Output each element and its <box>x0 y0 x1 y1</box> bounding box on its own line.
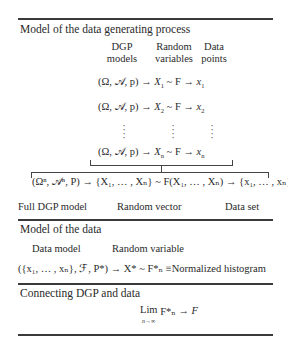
distribution: ~ F <box>167 146 181 157</box>
header-line: DGP <box>99 41 145 53</box>
arrow-icon: → <box>111 263 122 274</box>
vdots-icon: ···· <box>209 123 215 139</box>
normalized-histogram: Normalized histogram <box>172 263 266 274</box>
arrow-icon: → <box>183 101 194 112</box>
bottom-rule <box>18 334 273 336</box>
column-header-dgp-models: DGP models <box>99 41 145 65</box>
header-line: models <box>99 53 145 65</box>
probability-space: (Ω, 𝒜, p) <box>98 76 139 87</box>
label-full-dgp-model: Full DGP model <box>18 201 87 212</box>
label-data-set: Data set <box>225 201 259 212</box>
subscript: n <box>201 152 204 159</box>
column-header-data-points: Data points <box>198 41 230 65</box>
true-distribution: F <box>192 305 198 316</box>
arrow-icon: → <box>183 76 194 87</box>
subscript: 1 <box>201 82 204 89</box>
column-header-random-variable: Random variable <box>112 243 184 254</box>
arrow-icon: → <box>82 176 93 187</box>
subscript: 2 <box>201 107 204 114</box>
limit-equation: Lim n→∞ F*ₙ → F <box>140 305 198 326</box>
arrow-icon: → <box>141 101 152 112</box>
subscript: 2 <box>161 107 164 114</box>
probability-space: (Ω, 𝒜, p) <box>98 146 139 157</box>
vdots-icon: ···· <box>170 123 176 139</box>
subscript: 1 <box>161 82 164 89</box>
subscript: n <box>161 152 164 159</box>
random-vector: {X₁, … , Xₙ} <box>96 176 153 187</box>
lim-text: Lim <box>140 304 158 315</box>
distribution: ~ F <box>167 101 181 112</box>
arrow-icon: → <box>141 76 152 87</box>
joint-distribution: ~ F(X₁, … , Xₙ) <box>155 176 223 187</box>
dgp-row-2: (Ω, 𝒜, p) → X2 ~ F → x2 <box>98 101 204 114</box>
arrow-icon: → <box>178 305 189 316</box>
section-title-data-model: Model of the data <box>20 223 101 235</box>
header-line: points <box>198 53 230 65</box>
header-line: variables <box>152 53 196 65</box>
lim-subscript: n→∞ <box>142 318 155 324</box>
arrow-icon: → <box>141 146 152 157</box>
full-dgp-equation: (Ωⁿ, 𝒜ⁿ, P) → {X₁, … , Xₙ} ~ F(X₁, … , X… <box>32 175 288 188</box>
arrow-icon: → <box>226 176 237 187</box>
empirical-cdf: F*ₙ <box>160 306 176 317</box>
bracket-stem <box>161 165 162 172</box>
dgp-row-1: (Ω, 𝒜, p) → X1 ~ F → x1 <box>98 76 204 89</box>
header-line: Random <box>152 41 196 53</box>
data-model-equation: ({x₁, … , xₙ}, ℱ, P*) → X* ~ F*ₙ ≡Normal… <box>18 262 266 274</box>
vdots-icon: ···· <box>121 123 127 139</box>
data-model: ({x₁, … , xₙ}, ℱ, P*) <box>18 263 108 274</box>
top-rule <box>18 18 273 20</box>
empirical-random-variable: X* ~ F*ₙ <box>124 263 163 274</box>
distribution: ~ F <box>167 76 181 87</box>
section-divider <box>18 283 273 285</box>
header-line: Data <box>198 41 230 53</box>
section-title-dgp: Model of the data generating process <box>20 23 190 35</box>
section-title-connecting: Connecting DGP and data <box>20 287 140 299</box>
dgp-row-n: (Ω, 𝒜, p) → Xn ~ F → xn <box>98 146 204 159</box>
column-header-random-variables: Random variables <box>152 41 196 65</box>
arrow-icon: → <box>183 146 194 157</box>
limit-operator: Lim n→∞ <box>140 305 158 326</box>
product-space: (Ωⁿ, 𝒜ⁿ, P) <box>32 176 80 187</box>
probability-space: (Ω, 𝒜, p) <box>98 101 139 112</box>
column-header-data-model: Data model <box>32 243 81 254</box>
data-set: {x₁, … , xₙ} <box>239 176 288 187</box>
section-divider <box>18 219 273 221</box>
label-random-vector: Random vector <box>117 201 181 212</box>
